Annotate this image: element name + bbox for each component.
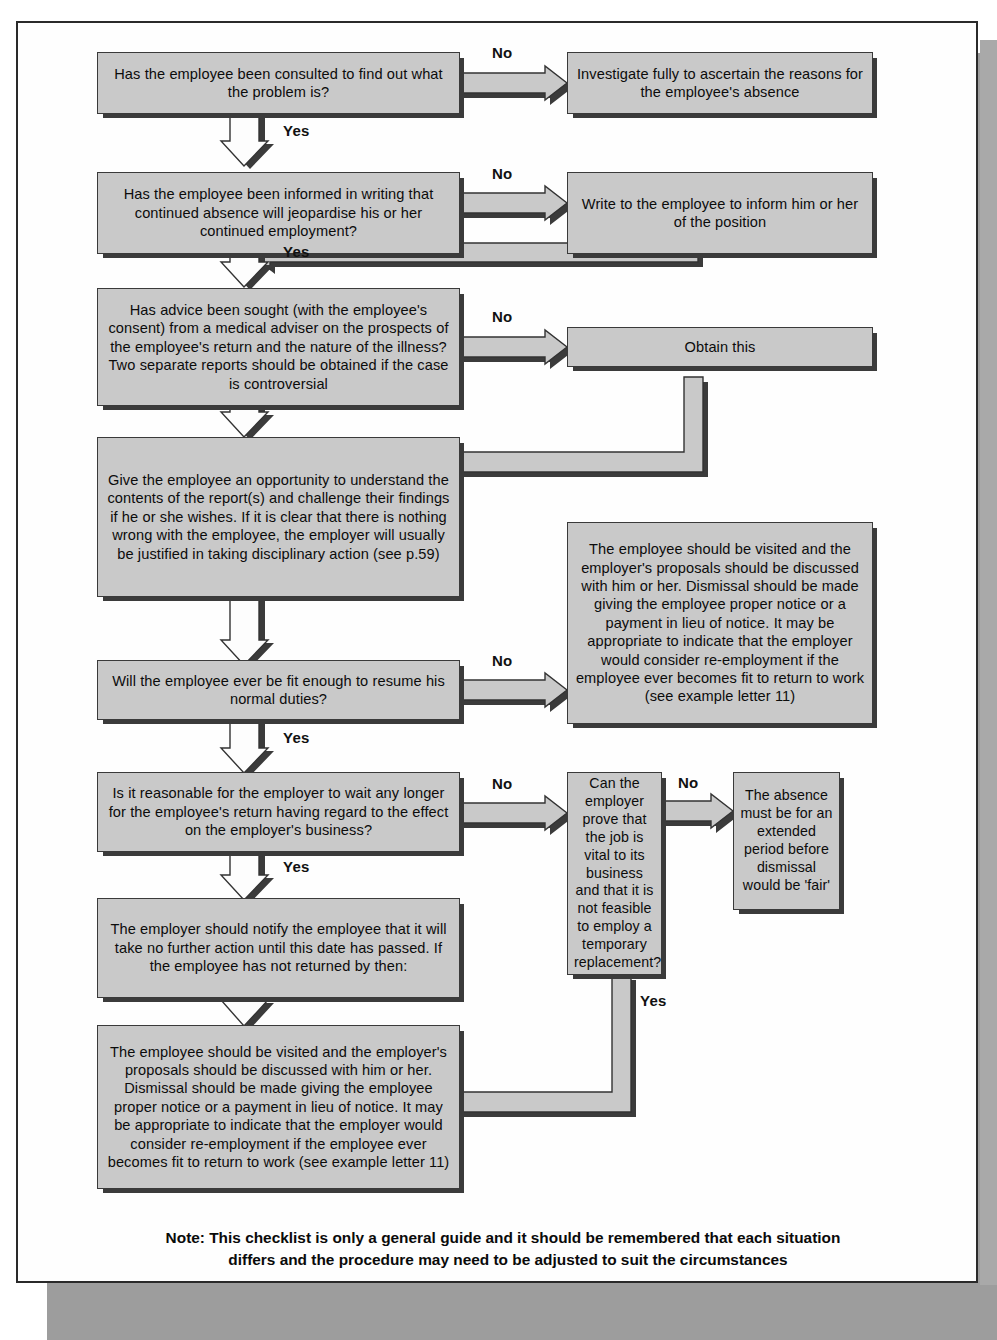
node-a3[interactable]: Obtain this [567,327,873,367]
footer-note-line2: differs and the procedure may need to be… [88,1249,918,1271]
connector-q1-yes [221,113,274,169]
connector-q6-yes [221,850,274,903]
edge-label-yes-q7: Yes [640,992,666,1009]
node-q7-text: Can the employer prove that the job is v… [574,775,655,972]
node-a5-text: The employee should be visited and the e… [574,540,866,705]
edge-label-yes-q6: Yes [283,858,309,875]
edge-label-no-q2: No [492,165,512,182]
connector-q1-no [459,66,572,105]
node-a1-text: Investigate fully to ascertain the reaso… [574,65,866,102]
node-q1-text: Has the employee been consulted to find … [104,65,453,102]
node-q1[interactable]: Has the employee been consulted to find … [97,52,460,114]
node-a7-text: The absence must be for an extended peri… [740,787,833,894]
node-p8[interactable]: The employer should notify the employee … [97,898,460,998]
node-q3[interactable]: Has advice been sought (with the employe… [97,288,460,406]
node-a2[interactable]: Write to the employee to inform him or h… [567,172,873,254]
node-a7[interactable]: The absence must be for an extended peri… [733,772,840,910]
node-a1[interactable]: Investigate fully to ascertain the reaso… [567,52,873,114]
connector-q7-no [661,794,738,833]
edge-label-yes-q2: Yes [283,243,309,260]
node-q2[interactable]: Has the employee been informed in writin… [97,172,460,254]
connector-q5-no [459,673,572,712]
connector-p4-q5 [221,595,274,668]
footer-note-line1: Note: This checklist is only a general g… [88,1227,918,1249]
connector-q5-yes [221,718,274,776]
node-q2-text: Has the employee been informed in writin… [104,185,453,240]
edge-label-no-q5: No [492,652,512,669]
node-q5-text: Will the employee ever be fit enough to … [104,672,453,709]
edge-label-yes-q5: Yes [283,729,309,746]
node-q3-text: Has advice been sought (with the employe… [104,301,453,393]
footer-note: Note: This checklist is only a general g… [88,1227,918,1271]
node-a2-text: Write to the employee to inform him or h… [574,195,866,232]
edge-label-yes-q1: Yes [283,122,309,139]
node-a3-text: Obtain this [574,338,866,356]
node-p4-text: Give the employee an opportunity to unde… [104,471,453,563]
node-q6-text: Is it reasonable for the employer to wai… [104,784,453,839]
node-p4[interactable]: Give the employee an opportunity to unde… [97,437,460,597]
flowchart-canvas: .cf{fill:#c9c9c9;stroke:#333;stroke-widt… [0,0,997,1340]
edge-label-no-q7: No [678,774,698,791]
node-p9[interactable]: The employee should be visited and the e… [97,1025,460,1189]
node-p8-text: The employer should notify the employee … [104,920,453,975]
connector-a3-return [425,377,708,484]
node-q5[interactable]: Will the employee ever be fit enough to … [97,660,460,720]
edge-label-no-q1: No [492,44,512,61]
connector-q2-no [459,186,572,225]
edge-label-no-q3: No [492,308,512,325]
node-p9-text: The employee should be visited and the e… [104,1043,453,1172]
edge-label-no-q6: No [492,775,512,792]
node-q6[interactable]: Is it reasonable for the employer to wai… [97,772,460,852]
connector-q6-no [459,796,572,835]
node-q7[interactable]: Can the employer prove that the job is v… [567,772,662,975]
connector-q7-yes [429,975,636,1124]
node-a5[interactable]: The employee should be visited and the e… [567,522,873,724]
connector-q3-no [459,330,572,369]
